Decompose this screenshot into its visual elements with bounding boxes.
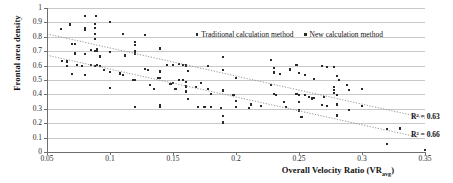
chart-legend: Traditional calculation method New calcu… (196, 29, 383, 40)
legend-label-new: New calculation method (310, 31, 383, 39)
data-point (60, 28, 62, 30)
data-point (361, 88, 363, 90)
data-point (285, 106, 287, 108)
data-point (321, 65, 323, 67)
data-point (326, 105, 328, 107)
data-point (134, 44, 136, 46)
data-point (134, 79, 136, 81)
data-point (235, 77, 237, 79)
data-point (321, 104, 323, 106)
data-point (153, 88, 155, 90)
legend-label-traditional: Traditional calculation method (201, 31, 293, 39)
data-point (300, 116, 302, 118)
data-point (323, 96, 325, 98)
data-point (94, 33, 96, 35)
data-point (172, 64, 174, 66)
x-tick-label: 0.1 (90, 155, 130, 163)
data-point (348, 109, 350, 111)
x-tick-label: 0.3 (342, 155, 382, 163)
y-tick-mark (44, 123, 47, 124)
data-point (248, 107, 250, 109)
data-point (94, 23, 96, 25)
data-point (178, 79, 180, 81)
data-point (346, 84, 348, 86)
data-point (172, 82, 174, 84)
data-point (250, 103, 252, 105)
r-squared-label-traditional: R² = 0.63 (411, 113, 440, 121)
data-point (149, 84, 151, 86)
data-point (94, 27, 96, 29)
data-point (210, 106, 212, 108)
data-point (109, 51, 111, 53)
data-point (298, 110, 300, 112)
y-axis-title: Frontal area density (12, 0, 22, 118)
data-point (298, 72, 300, 74)
data-point (95, 15, 97, 17)
data-point (187, 70, 189, 72)
data-point (283, 101, 285, 103)
data-point (94, 38, 96, 40)
data-point (124, 54, 126, 56)
data-point (159, 77, 161, 79)
gridline (47, 94, 425, 95)
legend-item-traditional[interactable]: Traditional calculation method (196, 31, 293, 39)
data-point (273, 67, 275, 69)
data-point (338, 79, 340, 81)
data-point (99, 55, 101, 57)
data-point (195, 86, 197, 88)
y-tick-mark (44, 66, 47, 67)
x-axis-title-tail: ) (391, 165, 394, 175)
data-point (178, 63, 180, 65)
gridline (47, 66, 425, 67)
gridline (47, 123, 425, 124)
data-point (81, 65, 83, 67)
data-point (235, 106, 237, 108)
x-tick-label: 0.25 (279, 155, 319, 163)
data-point (71, 73, 73, 75)
r-squared-label-new: R² = 0.66 (411, 131, 440, 139)
data-point (222, 89, 224, 91)
data-point (90, 64, 92, 66)
data-point (84, 28, 86, 30)
data-point (159, 48, 161, 50)
data-point (71, 43, 73, 45)
data-point (66, 65, 68, 67)
data-point (147, 69, 149, 71)
data-point (74, 43, 76, 45)
data-point (61, 60, 63, 62)
data-point (122, 33, 124, 35)
gridline (47, 8, 425, 9)
data-point (134, 52, 136, 54)
x-tick-label: 0.05 (27, 155, 67, 163)
y-tick-mark (44, 22, 47, 23)
x-tick-label: 0.35 (405, 155, 445, 163)
data-point (313, 78, 315, 80)
x-tick-label: 0.15 (153, 155, 193, 163)
gridline (47, 22, 425, 23)
data-point (333, 86, 335, 88)
y-tick-label: 0.1 (0, 134, 42, 142)
y-tick-mark (44, 80, 47, 81)
data-point (185, 65, 187, 67)
data-point (144, 34, 146, 36)
data-point (313, 97, 315, 99)
data-point (289, 68, 291, 70)
data-point (185, 90, 187, 92)
data-point (273, 71, 275, 73)
data-point (103, 69, 105, 71)
legend-item-new[interactable]: New calculation method (304, 31, 383, 39)
data-point (386, 128, 388, 130)
x-tick-label: 0.2 (216, 155, 256, 163)
y-tick-mark (44, 51, 47, 52)
data-point (185, 81, 187, 83)
data-point (386, 143, 388, 145)
data-point (361, 105, 363, 107)
data-point (348, 89, 350, 91)
data-point (336, 103, 338, 105)
data-point (222, 69, 224, 71)
y-tick-label: 0.2 (0, 119, 42, 127)
data-point (298, 94, 300, 96)
y-tick-mark (44, 8, 47, 9)
y-tick-mark (44, 37, 47, 38)
data-point (203, 106, 205, 108)
